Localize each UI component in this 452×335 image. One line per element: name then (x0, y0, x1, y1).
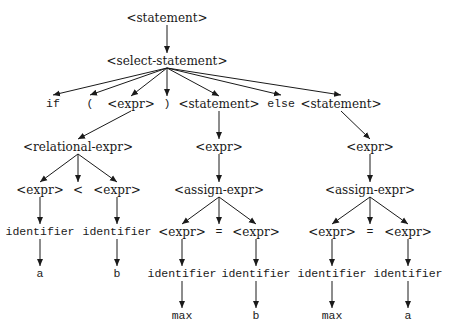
nonterminal-node: <statement> (126, 12, 207, 24)
nonterminal-node: <expr> (158, 226, 205, 238)
terminal-node: ) (164, 98, 171, 110)
nonterminal-node: <expr> (308, 226, 355, 238)
edge-arrow (40, 154, 78, 182)
terminal-node: identifier (147, 268, 216, 280)
terminal-node: identifier (373, 268, 442, 280)
nonterminal-node: <statement> (300, 98, 381, 110)
edge-arrow (370, 197, 408, 224)
terminal-node: identifier (297, 268, 366, 280)
terminal-node: identifier (221, 268, 290, 280)
nonterminal-node: <statement> (178, 98, 259, 110)
edge-arrow (78, 111, 131, 139)
nonterminal-node: <select-statement> (107, 55, 228, 67)
terminal-node: b (253, 310, 260, 322)
edge-arrow (167, 68, 281, 95)
nonterminal-node: <expr> (93, 184, 140, 196)
nonterminal-node: <expr> (16, 184, 63, 196)
nonterminal-node: <expr> (232, 226, 279, 238)
tree-edges (0, 0, 452, 335)
nonterminal-node: <expr> (195, 141, 242, 153)
parse-tree-diagram: <statement><select-statement>if(<expr>)<… (0, 0, 452, 335)
terminal-node: identifier (82, 226, 151, 238)
nonterminal-node: <assign-expr> (325, 184, 415, 196)
edge-arrow (90, 68, 167, 95)
nonterminal-node: <expr> (384, 226, 431, 238)
terminal-node: max (322, 310, 343, 322)
terminal-node: a (37, 268, 44, 280)
edge-arrow (219, 197, 256, 224)
edge-arrow (341, 111, 370, 139)
terminal-node: identifier (5, 226, 74, 238)
nonterminal-node: <relational-expr> (23, 141, 133, 153)
terminal-node: if (46, 98, 60, 110)
nonterminal-node: <expr> (107, 98, 154, 110)
edge-arrow (182, 197, 219, 224)
terminal-node: ( (87, 98, 94, 110)
terminal-node: = (367, 226, 374, 238)
terminal-node: else (267, 98, 295, 110)
nonterminal-node: < (73, 184, 83, 196)
terminal-node: max (172, 310, 193, 322)
nonterminal-node: <expr> (346, 141, 393, 153)
nonterminal-node: <assign-expr> (174, 184, 264, 196)
terminal-node: a (405, 310, 412, 322)
terminal-node: b (114, 268, 121, 280)
edge-arrow (332, 197, 370, 224)
edge-arrow (78, 154, 117, 182)
terminal-node: = (216, 226, 223, 238)
